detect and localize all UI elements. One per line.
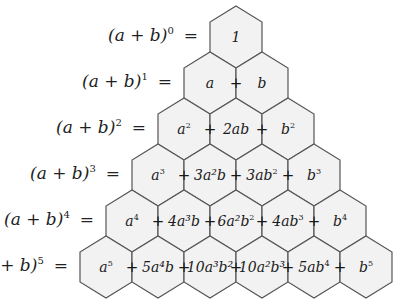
power-label: + b)5= (0, 255, 68, 275)
plus-sign: + (308, 212, 321, 230)
plus-sign: + (178, 166, 191, 184)
power-label: (a + b)4= (4, 209, 94, 229)
term-label: b2 (281, 121, 295, 137)
term-label: 10a³b² (187, 259, 233, 275)
term-label: 3ab2 (246, 167, 277, 183)
term-label: b (258, 75, 267, 91)
plus-sign: + (282, 166, 295, 184)
plus-sign: + (126, 258, 139, 276)
term-label: 10a²b³ (239, 259, 285, 275)
plus-sign: + (256, 212, 269, 230)
plus-sign: + (334, 258, 347, 276)
term-label: b5 (359, 259, 373, 275)
term-label: b4 (333, 213, 347, 229)
term-label: a3 (151, 167, 164, 183)
term-label: 4ab3 (272, 213, 303, 229)
plus-sign: + (256, 120, 269, 138)
plus-sign: + (230, 166, 243, 184)
term-label: a (206, 75, 214, 91)
plus-sign: + (204, 212, 217, 230)
term-label: 5a⁴b (142, 259, 174, 275)
term-label: a5 (99, 259, 112, 275)
power-label: (a + b)0= (108, 25, 198, 45)
power-label: (a + b)3= (30, 163, 120, 183)
binomial-pyramid-diagram: 1(a + b)0=a+b(a + b)1=a2+2ab+b2(a + b)2=… (0, 0, 402, 308)
term-label: 5ab4 (298, 259, 329, 275)
term-label: 3a²b (194, 167, 226, 183)
term-label: 2ab (223, 121, 249, 137)
power-label: (a + b)2= (56, 117, 146, 137)
power-label: (a + b)1= (82, 71, 172, 91)
plus-sign: + (230, 74, 243, 92)
term-label: a2 (177, 121, 190, 137)
term-label: a4 (125, 213, 138, 229)
term-label: b3 (307, 167, 321, 183)
plus-sign: + (282, 258, 295, 276)
plus-sign: + (204, 120, 217, 138)
term-label: 6a²b2 (218, 213, 255, 229)
term-label: 4a³b (168, 213, 200, 229)
plus-sign: + (152, 212, 165, 230)
term-label: 1 (232, 29, 241, 45)
